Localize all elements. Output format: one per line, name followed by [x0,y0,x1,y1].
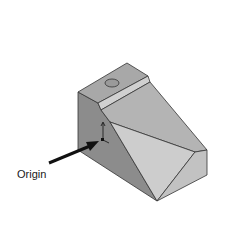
origin-label: Origin [17,168,46,180]
hole-icon [105,79,119,87]
isometric-block-figure [0,0,250,231]
origin-point [101,138,104,141]
